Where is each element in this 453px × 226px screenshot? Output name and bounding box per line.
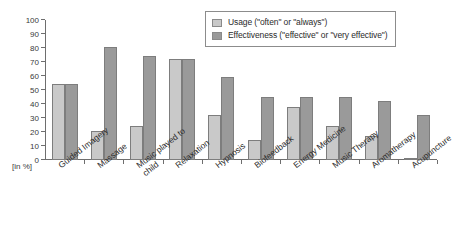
y-tick-label: 70 [30,58,39,67]
bar-usage [130,126,143,160]
bar-group [45,20,84,160]
legend-swatch-effectiveness [212,32,222,40]
bar-effectiveness [143,56,156,160]
y-tick-label: 40 [30,100,39,109]
x-tick-mark [241,160,242,164]
y-tick-label: 60 [30,72,39,81]
x-tick-mark [84,160,85,164]
x-tick-mark [123,160,124,164]
x-tick-mark [437,160,438,164]
bar-effectiveness [104,47,117,160]
legend-item-effectiveness: Effectiveness ("effective" or "very effe… [212,29,388,42]
y-tick-label: 80 [30,44,39,53]
legend-label-usage: Usage ("often" or "always") [228,17,327,28]
chart-legend: Usage ("often" or "always") Effectivenes… [205,11,396,47]
legend-item-usage: Usage ("often" or "always") [212,16,388,29]
y-tick-label: 30 [30,114,39,123]
x-tick-mark [398,160,399,164]
y-tick-label: 0 [35,156,39,165]
y-tick-label: 50 [30,86,39,95]
bar-usage [208,115,221,160]
y-tick-label: 20 [30,128,39,137]
x-tick-mark [319,160,320,164]
y-tick-label: 10 [30,142,39,151]
x-tick-mark [280,160,281,164]
bar-group [123,20,162,160]
x-tick-mark [202,160,203,164]
bar-usage [52,84,65,160]
legend-swatch-usage [212,19,222,27]
legend-label-effectiveness: Effectiveness ("effective" or "very effe… [228,30,388,41]
x-tick-mark [359,160,360,164]
y-axis-unit-label: [in %] [12,162,32,171]
y-tick-label: 90 [30,30,39,39]
y-tick-label: 100 [26,16,39,25]
